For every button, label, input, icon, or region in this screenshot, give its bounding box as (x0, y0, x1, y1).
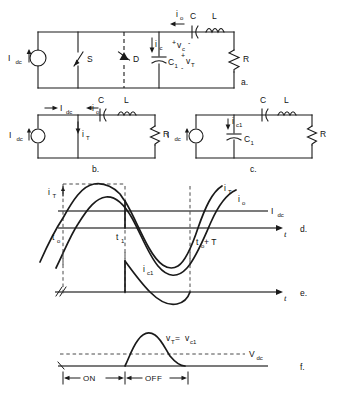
c1-label-c: C (244, 134, 250, 144)
plot-e-axis-label: t (284, 293, 287, 303)
resistor-r-zigzag-b (151, 126, 160, 145)
c1-sublabel-c: 1 (251, 140, 255, 146)
plot-d-it-sublabel: T (228, 189, 232, 195)
plot-f-on-label: ON (83, 374, 96, 383)
plot-d-tick-t0-sub: o (57, 238, 61, 244)
plot-e-axis-arrow (276, 289, 283, 295)
plot-f-off-label: OFF (145, 374, 162, 383)
idc-sublabel-b: dc (66, 109, 72, 115)
vc-sublabel: c (182, 46, 185, 52)
plot-d-axis-label: t (284, 229, 287, 239)
resistor-r-zigzag-c (308, 126, 317, 145)
circuit-a: I dc S D C 1 i c i o C (8, 9, 249, 88)
c1-plate-bottom (152, 61, 166, 63)
panel-label-d: d. (300, 224, 307, 234)
c1-label: C (168, 57, 174, 67)
cap-c-label-c: C (260, 95, 266, 105)
circuit-b: I dc I dc i o i T C L R b. (9, 95, 169, 174)
plot-d-tick-t1-sub: 1 (121, 238, 125, 244)
ic1-sublabel-c: c1 (236, 122, 243, 128)
source-label-c: I (167, 130, 169, 140)
plot-f-vdc-label: V (249, 349, 255, 359)
plot-f-off-arrow-right-head (182, 376, 188, 380)
vc-minus-sign: - (188, 39, 191, 46)
it-arrow-head-b (76, 129, 81, 135)
c1-sublabel: 1 (175, 63, 179, 69)
ic1-arrow-head-c (226, 125, 231, 131)
plot-d-idc-label: I (271, 206, 273, 216)
current-source-arrow-head-a (27, 49, 32, 54)
it-label-b: i (82, 129, 84, 139)
source-label-b: I (9, 130, 11, 140)
plot-f: V dc v T = v c1 ON OFF f. (58, 333, 305, 384)
plot-f-vdc-sublabel: dc (257, 355, 263, 361)
plot-e-trace-label: i (143, 264, 145, 274)
plot-d-tick-t0T: t (196, 237, 199, 247)
plot-e: t i c1 e. (55, 252, 307, 304)
plot-d-io-sublabel: o (242, 200, 246, 206)
idc-arrow-head-b (53, 106, 59, 111)
plot-d-trace-it-off (125, 186, 222, 268)
plot-e-trace-decay (125, 261, 190, 304)
plot-d-amp-label: i (48, 187, 50, 197)
plot-f-off-arrow-left-head (126, 376, 132, 380)
source-sublabel-b: dc (17, 136, 23, 142)
io-arrow-head-b (86, 106, 92, 111)
figure-root: I dc S D C 1 i c i o C (0, 0, 338, 403)
vc-plus-sign: + (172, 39, 176, 46)
idc-label-b: I (60, 103, 62, 113)
figure-canvas: I dc S D C 1 i c i o C (0, 0, 338, 403)
switch-label: S (87, 54, 93, 64)
cap-c-label-a: C (190, 11, 196, 21)
switch-arrow-head (74, 60, 80, 67)
resistor-r-label-c: R (320, 129, 326, 139)
diode-label: D (133, 54, 139, 64)
circuit-c: I dc C 1 i c1 C L R c. (167, 95, 326, 174)
plot-d-it-label: i (224, 183, 226, 193)
plot-f-eq-label: = (175, 333, 180, 343)
panel-label-b: b. (92, 164, 99, 174)
source-sublabel-c: dc (175, 136, 181, 142)
source-sublabel-a: dc (16, 59, 22, 65)
vt-sublabel: T (191, 62, 195, 68)
plot-d-io-label: i (238, 194, 240, 204)
panel-label-f: f. (300, 362, 305, 372)
plot-f-on-arrow-right-head (119, 376, 125, 380)
io-sublabel-a: o (180, 15, 184, 21)
resistor-r-label-a: R (243, 54, 249, 64)
resistor-r-zigzag-a (229, 50, 239, 72)
plot-d-tick-t0T-rest: + T (204, 237, 216, 247)
panel-label-a: a. (241, 77, 248, 87)
current-source-arrow-head-b (27, 128, 31, 133)
io-label-a: i (176, 9, 178, 19)
plot-e-trace-sublabel: c1 (147, 270, 154, 276)
ic-arrow-head (150, 48, 155, 54)
io-arrow-head-a (170, 22, 176, 27)
current-source-arrow-head-c (185, 128, 189, 133)
plot-d-tick-t1: t (116, 232, 119, 242)
plot-d-idc-sublabel: dc (278, 212, 284, 218)
plot-d-amp-sublabel: T (53, 193, 57, 199)
inductor-l-label-c: L (284, 95, 289, 105)
panel-label-c: c. (250, 164, 257, 174)
current-source-symbol-a (30, 50, 46, 66)
source-label-a: I (8, 53, 10, 63)
plot-d-axis-arrow (276, 225, 283, 231)
it-sublabel-b: T (86, 135, 90, 141)
io-label-b: i (92, 103, 94, 113)
ic-sublabel: c (160, 45, 163, 51)
plot-d: t I dc i T i T i o t o t 1 t o + T (40, 183, 307, 275)
vt-plus-sign: + (181, 52, 185, 59)
current-source-symbol-b (31, 129, 45, 143)
plot-f-on-arrow-left-head (64, 376, 70, 380)
inductor-l-label-b: L (124, 95, 129, 105)
panel-label-e: e. (300, 288, 307, 298)
io-sublabel-b: o (96, 109, 100, 115)
ic1-label-c: i (232, 116, 234, 126)
plot-f-vc1-sublabel: c1 (190, 339, 197, 345)
cap-c-label-b: C (98, 95, 104, 105)
vt-minus-sign: - (181, 64, 184, 71)
inductor-l-label-a: L (212, 11, 217, 21)
current-source-symbol-c (189, 129, 203, 143)
ic-label: i (155, 39, 157, 49)
